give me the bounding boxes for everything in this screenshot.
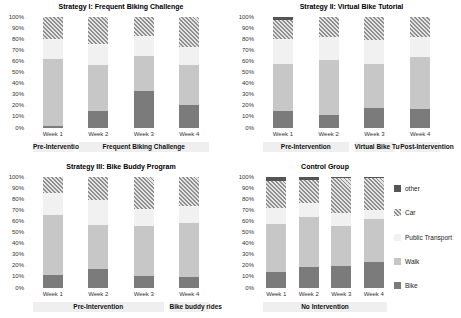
x-axis-labels: Week 1Week 2Week 3Week 4 xyxy=(30,131,212,137)
segment-walk xyxy=(331,226,351,266)
bar-cell xyxy=(260,17,306,128)
y-tick-label: 90% xyxy=(12,25,24,32)
segment-car xyxy=(364,178,384,210)
segment-public_transport xyxy=(331,213,351,226)
segment-walk xyxy=(43,215,63,275)
y-tick-label: 100% xyxy=(239,174,254,181)
week-label: Week 2 xyxy=(76,291,122,297)
y-tick-label: 80% xyxy=(242,36,254,43)
segment-walk xyxy=(299,217,319,267)
legend-item-public_transport: Public Transport xyxy=(394,234,458,241)
y-tick-label: 60% xyxy=(242,218,254,225)
phase-labels: Pre-InterventionFrequent Biking Challeng… xyxy=(30,142,212,153)
week-label: Week 1 xyxy=(30,131,76,137)
segment-car xyxy=(43,17,63,39)
stacked-bar-week-1 xyxy=(273,17,293,128)
segment-car xyxy=(179,17,199,47)
plot-area xyxy=(260,17,443,128)
bars xyxy=(30,177,212,288)
y-tick-label: 50% xyxy=(242,69,254,76)
stacked-bar-week-1 xyxy=(43,17,63,128)
legend-swatch-walk xyxy=(394,258,401,265)
bars xyxy=(30,17,212,128)
x-axis-labels: Week 1Week 2Week 3Week 4 xyxy=(260,131,443,137)
segment-walk xyxy=(364,219,384,262)
segment-walk xyxy=(266,224,286,273)
legend-label: Car xyxy=(405,209,415,216)
segment-bike xyxy=(43,275,63,288)
segment-public_transport xyxy=(88,44,108,65)
segment-car xyxy=(331,178,351,212)
segment-car xyxy=(134,177,154,209)
segment-public_transport xyxy=(266,208,286,224)
segment-walk xyxy=(179,223,199,277)
segment-bike xyxy=(43,126,63,128)
segment-public_transport xyxy=(88,200,108,224)
x-axis-labels: Week 1Week 2Week 3Week 4 xyxy=(30,291,212,297)
stacked-bar-week-4 xyxy=(410,17,430,128)
y-tick-label: 70% xyxy=(12,47,24,54)
y-tick-label: 30% xyxy=(12,251,24,258)
segment-public_transport xyxy=(273,39,293,63)
y-axis-ticks: 100%90%80%70%60%50%40%30%20%10%0% xyxy=(0,177,26,288)
chart-panel-control-group: Control Group 100%90%80%70%60%50%40%30%2… xyxy=(230,160,461,318)
legend-label: Bike xyxy=(405,282,418,289)
bar-cell xyxy=(260,177,293,288)
segment-walk xyxy=(134,226,154,276)
y-tick-label: 0% xyxy=(15,285,24,292)
stacked-bar-week-2 xyxy=(299,177,319,288)
y-tick-label: 90% xyxy=(242,25,254,32)
segment-bike xyxy=(134,276,154,288)
segment-bike xyxy=(266,272,286,288)
chart-panel-strategy-3: Strategy III: Bike Buddy Program 100%90%… xyxy=(0,160,230,318)
segment-public_transport xyxy=(179,206,199,223)
phase-label: Virtual Bike Tutorial xyxy=(355,142,395,152)
legend-label: other xyxy=(405,185,420,192)
stacked-bar-week-3 xyxy=(134,17,154,128)
segment-bike xyxy=(134,91,154,128)
week-label: Week 4 xyxy=(358,291,391,297)
segment-walk xyxy=(88,225,108,269)
legend-item-bike: Bike xyxy=(394,282,458,289)
legend-item-other: other xyxy=(394,185,458,192)
segment-public_transport xyxy=(410,37,430,57)
segment-car xyxy=(88,177,108,200)
segment-bike xyxy=(364,262,384,288)
legend-swatch-public_transport xyxy=(394,234,401,241)
segment-bike xyxy=(319,115,339,128)
week-label: Week 3 xyxy=(121,131,167,137)
segment-walk xyxy=(319,60,339,114)
phase-label: Pre-Intervention xyxy=(263,142,349,152)
y-tick-label: 90% xyxy=(12,185,24,192)
y-axis-ticks: 100%90%80%70%60%50%40%30%20%10%0% xyxy=(230,177,256,288)
segment-bike xyxy=(331,266,351,288)
week-label: Week 3 xyxy=(121,291,167,297)
segment-walk xyxy=(273,64,293,112)
legend-swatch-other xyxy=(394,185,401,192)
segment-public_transport xyxy=(299,203,319,217)
stacked-bar-week-1 xyxy=(266,177,286,288)
y-tick-label: 70% xyxy=(12,207,24,214)
segment-public_transport xyxy=(134,36,154,56)
chart-title: Strategy II: Virtual Bike Tutorial xyxy=(260,3,443,10)
legend-label: Walk xyxy=(405,258,419,265)
bar-cell xyxy=(352,17,398,128)
legend: otherCarPublic TransportWalkBike xyxy=(394,185,458,289)
stacked-bar-week-2 xyxy=(88,177,108,288)
y-tick-label: 10% xyxy=(242,113,254,120)
y-tick-label: 100% xyxy=(9,14,24,21)
y-tick-label: 60% xyxy=(12,58,24,65)
bars xyxy=(260,177,390,288)
y-tick-label: 10% xyxy=(12,273,24,280)
bar-cell xyxy=(167,17,213,128)
segment-car xyxy=(43,177,63,193)
segment-car xyxy=(88,17,108,44)
phase-label: Frequent Biking Challenge xyxy=(79,142,210,152)
y-tick-label: 70% xyxy=(242,207,254,214)
y-tick-label: 40% xyxy=(242,240,254,247)
y-tick-label: 0% xyxy=(15,125,24,132)
segment-car xyxy=(364,17,384,40)
week-label: Week 2 xyxy=(306,131,352,137)
segment-public_transport xyxy=(43,193,63,215)
phase-labels: Pre-InterventionBike buddy rides xyxy=(30,302,212,313)
